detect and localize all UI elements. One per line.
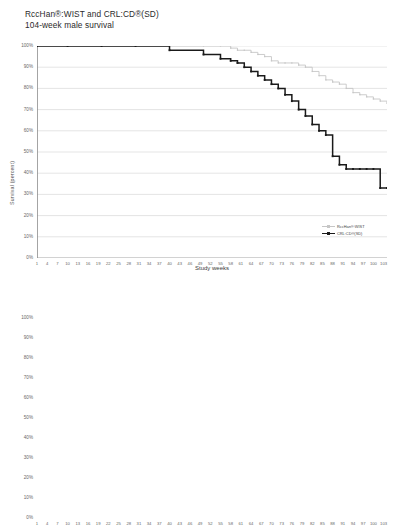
series-marker [203, 54, 205, 56]
male-y-axis-label: Survival (percent) [9, 161, 15, 205]
legend-label-crl: CRL:CD®(SD) [337, 231, 362, 236]
series-marker [346, 88, 347, 89]
series-marker [312, 71, 313, 72]
series-marker [304, 115, 306, 117]
series-marker [291, 62, 292, 63]
series-marker [298, 109, 300, 111]
series-marker [284, 62, 285, 63]
series-marker [230, 47, 231, 48]
series-marker [250, 52, 251, 53]
series-marker [278, 62, 279, 63]
series-marker [264, 79, 266, 81]
series-marker [345, 168, 347, 170]
series-marker [244, 50, 245, 51]
series-marker [220, 58, 222, 60]
series-marker [332, 155, 334, 157]
legend-line-icon-crl [322, 233, 335, 234]
y-tick-label: 40% [11, 170, 33, 175]
series-marker [271, 60, 272, 61]
series-marker [366, 168, 368, 170]
series-marker [37, 46, 38, 47]
series-marker [237, 62, 239, 64]
legend-item-rcchan: RccHan®:WIST [322, 223, 365, 229]
legend-label-rcchan: RccHan®:WIST [337, 224, 365, 229]
legend-line-icon-rcchan [322, 226, 335, 227]
series-marker [386, 103, 387, 104]
series-marker [373, 98, 374, 99]
series-marker [352, 92, 353, 93]
male-survival-chart: RccHan®:WIST and CRL:CD®(SD) 104-week ma… [0, 0, 398, 275]
y-tick-label: 100% [11, 315, 33, 320]
y-tick-label: 50% [11, 415, 33, 420]
series-marker [352, 168, 354, 170]
series-marker [101, 46, 103, 47]
series-marker [325, 79, 326, 80]
series-marker [338, 164, 340, 166]
y-tick-label: 80% [11, 355, 33, 360]
series-marker [67, 46, 69, 47]
series-marker [386, 187, 387, 189]
series-marker [305, 67, 306, 68]
x-tick-label: 103 [377, 521, 391, 526]
y-tick-label: 10% [11, 495, 33, 500]
y-tick-label: 90% [11, 335, 33, 340]
male-legend: RccHan®:WIST CRL:CD®(SD) [322, 223, 365, 237]
series-marker [318, 130, 320, 132]
y-tick-label: 10% [11, 234, 33, 239]
y-tick-label: 60% [11, 395, 33, 400]
y-tick-label: 0% [11, 255, 33, 260]
y-tick-label: 70% [11, 107, 33, 112]
series-marker [284, 94, 286, 96]
series-marker [257, 54, 258, 55]
y-tick-label: 0% [11, 515, 33, 520]
y-tick-label: 70% [11, 375, 33, 380]
series-marker [372, 168, 374, 170]
series-marker [311, 123, 313, 125]
series-marker [250, 70, 252, 72]
male-chart-title: RccHan®:WIST and CRL:CD®(SD) 104-week ma… [25, 9, 159, 31]
y-tick-label: 30% [11, 191, 33, 196]
series-marker [359, 168, 361, 170]
series-marker [220, 46, 221, 47]
series-marker [169, 49, 171, 51]
y-tick-label: 50% [11, 149, 33, 154]
series-marker [291, 100, 293, 102]
series-marker [264, 56, 265, 57]
series-marker [298, 64, 299, 65]
series-marker [318, 75, 319, 76]
series-marker [332, 81, 333, 82]
y-tick-label: 30% [11, 455, 33, 460]
series-marker [257, 75, 259, 77]
y-tick-label: 80% [11, 85, 33, 90]
series-marker [359, 94, 360, 95]
x-tick-label: 103 [377, 261, 391, 266]
y-tick-label: 60% [11, 128, 33, 133]
series-marker [237, 50, 238, 51]
series-marker [325, 134, 327, 136]
series-marker [366, 96, 367, 97]
series-marker [379, 187, 381, 189]
y-tick-label: 20% [11, 213, 33, 218]
series-marker [203, 46, 204, 47]
y-tick-label: 20% [11, 475, 33, 480]
y-tick-label: 40% [11, 435, 33, 440]
series-marker [277, 87, 279, 89]
series-marker [380, 100, 381, 101]
legend-item-crl: CRL:CD®(SD) [322, 230, 365, 236]
series-marker [271, 83, 273, 85]
y-tick-label: 90% [11, 64, 33, 69]
series-marker [243, 66, 245, 68]
series-marker [339, 84, 340, 85]
series-marker [230, 60, 232, 62]
series-marker [135, 46, 137, 47]
y-tick-label: 100% [11, 43, 33, 48]
